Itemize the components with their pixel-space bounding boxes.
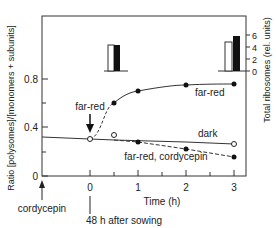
sowing-label: 48 h after sowing xyxy=(86,215,162,226)
x-tick-2: 2 xyxy=(183,182,189,193)
y2-tick-4: 4 xyxy=(252,43,257,53)
y2-axis-ticks xyxy=(246,35,250,71)
x-tick-3: 3 xyxy=(231,182,237,193)
x-axis-label: Time (h) xyxy=(144,196,181,207)
inset-bars-t0 xyxy=(104,45,128,71)
y-axis-label: Ratio [polysomes]/[monomers + subunits] xyxy=(6,25,16,190)
x-tick-0: 0 xyxy=(87,182,93,193)
farred-down-arrow-icon xyxy=(86,114,94,133)
y2-axis-label: Total ribosomes (rel. units) xyxy=(262,17,272,123)
x-tick-1: 1 xyxy=(135,182,141,193)
x-axis-ticks xyxy=(90,170,234,176)
farred-curve-label: far-red xyxy=(195,87,224,98)
y-tick-0: 0 xyxy=(32,171,38,182)
y2-tick-2: 2 xyxy=(252,55,257,65)
y2-tick-0: 0 xyxy=(252,67,257,77)
y-axis-ticks xyxy=(42,79,48,176)
y-tick-0.4: 0.4 xyxy=(24,122,38,133)
ribosome-chart: 0 0.4 0.8 Ratio [polysomes]/[monomers + … xyxy=(0,0,276,228)
cordycepin-series-label: far-red, cordycepin xyxy=(124,151,207,162)
y2-tick-6: 6 xyxy=(252,31,257,41)
inset-bars-t3 xyxy=(218,36,246,71)
cordycepin-label: cordycepin xyxy=(18,203,66,214)
cordycepin-arrow-icon xyxy=(39,180,45,200)
y-tick-0.8: 0.8 xyxy=(24,74,38,85)
farred-arrow-label: far-red xyxy=(75,101,104,112)
dark-label: dark xyxy=(198,128,218,139)
